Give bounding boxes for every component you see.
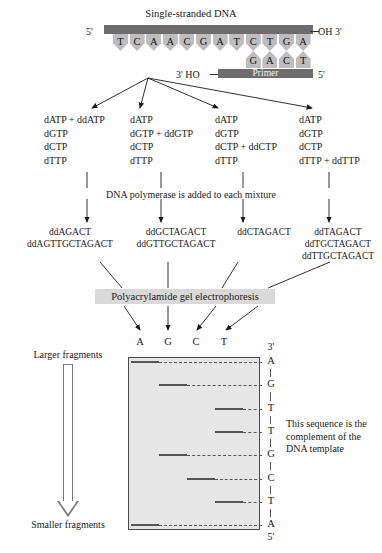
sanger-sequencing-diagram: { "figure": { "template_title": "Single-… [0,0,382,553]
sequence-connector-tick [270,416,271,424]
gel-band-leader [215,479,262,480]
primer-3prime-ho-label: 3' HO [176,69,200,80]
mixture-column-a: dATP + ddATPdGTPdCTPdTTP [44,113,105,167]
gel-band-leader [159,362,262,363]
sequence-connector-tick [270,369,271,377]
mixture-line: dATP [299,113,360,127]
mixture-column-t: dATPdGTPdCTPdTTP + ddTTP [299,113,360,167]
gel-band [159,454,187,456]
gel-band-leader [243,409,262,410]
gel-band [131,361,159,363]
sequence-base: T [264,425,278,436]
mixture-line: dTTP + ddTTP [299,154,360,168]
gel-lane-header[interactable]: G [158,336,178,347]
template-base-letter: C [179,35,194,48]
mixture-column-c: dATPdGTPdCTP + ddCTPdTTP [215,113,277,167]
template-title: Single-stranded DNA [0,8,382,19]
sequence-connector-tick [270,486,271,494]
template-base-letter: A [213,35,228,48]
mixture-line: dTTP [215,154,277,168]
gel-band-leader [243,432,262,433]
sequence-connector-tick [270,509,271,517]
smaller-fragments-label: Smaller fragments [20,519,116,530]
mixture-line: dATP [130,113,193,127]
fragment-line: ddTTGCTAGACT [292,250,382,262]
template-base-letter: T [262,35,277,48]
polymerase-step-label: DNA polymerase is added to each mixture [0,189,382,200]
larger-fragments-label: Larger fragments [20,349,116,360]
primer-base-letter: G [246,54,261,67]
sequence-base: A [264,355,278,366]
mixture-line: dATP + ddATP [44,113,105,127]
primer-base-letter: T [296,54,311,67]
sequence-base: T [264,495,278,506]
sequence-base: A [264,518,278,529]
gel-band-leader [187,385,262,386]
template-base-letter: C [246,35,261,48]
gel-box [128,357,260,530]
sequence-3prime-marker: 3' [264,341,278,352]
template-base-letter: T [229,35,244,48]
fragment-line: ddAGACT [10,226,130,238]
gel-band [215,431,243,433]
mixture-line: dGTP + ddGTP [130,127,193,141]
primer-5prime-label: 5' [318,69,325,80]
mixture-line: dCTP [130,140,193,154]
template-base-letter: A [296,35,311,48]
sequence-base: G [264,448,278,459]
template-base-letter: A [163,35,178,48]
gel-electrophoresis-label: Polyacrylamide gel electrophoresis [95,289,275,304]
mixture-line: dGTP [299,127,360,141]
mixture-line: dCTP [44,140,105,154]
template-strand-bar [104,25,313,34]
gel-lane-header[interactable]: C [186,336,206,347]
template-base-letter: G [196,35,211,48]
gel-lane-header[interactable]: A [130,336,150,347]
gel-band [131,524,159,526]
gel-band-leader [187,455,262,456]
sequence-connector-tick [270,392,271,400]
template-base-letter: T [113,35,128,48]
gel-band-leader [243,502,262,503]
gel-band [215,408,243,410]
gel-lane-header[interactable]: T [214,336,234,347]
template-base-letter: A [146,35,161,48]
sequence-5prime-marker: 5' [264,531,278,542]
template-5prime-label: 5' [86,26,93,37]
fragment-size-arrow-head-inner [59,501,77,514]
gel-band [187,478,215,480]
sequence-base: T [264,402,278,413]
mixture-line: dTTP [44,154,105,168]
template-base-letter: C [130,35,145,48]
fragment-list-a: ddAGACTddAGTTGCTAGACT [10,226,130,250]
mixture-line: dCTP [299,140,360,154]
sequence-connector-tick [270,439,271,447]
mixture-line: dGTP [44,127,105,141]
mixture-line: dCTP + ddCTP [215,140,277,154]
fragment-line: ddTGCTAGACT [292,238,382,250]
sequence-base: C [264,472,278,483]
mixture-line: dTTP [130,154,193,168]
mixture-line: dGTP [215,127,277,141]
mixture-line: dATP [215,113,277,127]
template-base-letter: G [279,35,294,48]
fragment-size-arrow-shaft [63,364,73,502]
fragment-line: ddTAGACT [292,226,382,238]
sequence-connector-tick [270,462,271,470]
complement-note: This sequence is the complement of the D… [286,418,378,456]
gel-band-leader [159,525,262,526]
primer-base-letter: C [279,54,294,67]
fragment-line: ddAGTTGCTAGACT [10,238,130,250]
gel-band [215,501,243,503]
fragment-line: ddGTTGCTAGACT [120,238,232,250]
sequence-base: G [264,378,278,389]
template-3prime-oh-label: OH 3' [318,26,342,37]
primer-label: Primer [218,68,313,78]
fragment-list-t: ddTAGACTddTGCTAGACTddTTGCTAGACT [292,226,382,262]
gel-band [159,384,187,386]
mixture-column-g: dATPdGTP + ddGTPdCTPdTTP [130,113,193,167]
primer-base-letter: A [262,54,277,67]
